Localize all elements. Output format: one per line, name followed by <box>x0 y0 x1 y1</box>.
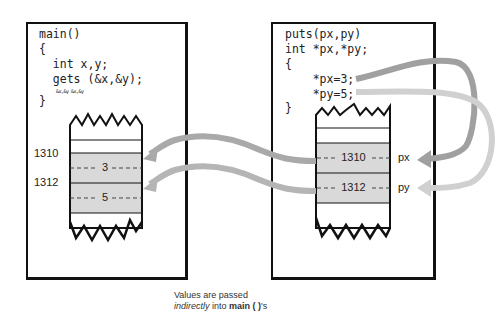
label-px: px <box>398 151 410 163</box>
caption: Values are passed indirectly into main (… <box>174 290 267 312</box>
caption-line-2: indirectly into main ( )'s <box>174 301 267 312</box>
value-px: 1310 <box>335 151 372 163</box>
arrow-py-to-y <box>143 166 316 192</box>
value-y: 5 <box>98 191 112 203</box>
label-py: py <box>398 181 410 193</box>
caption-italic: indirectly <box>174 301 210 311</box>
address-1310: 1310 <box>34 147 58 159</box>
value-py: 1312 <box>335 181 372 193</box>
caption-bold: main ( ) <box>229 301 261 311</box>
main-stack <box>70 114 142 240</box>
arrow-px-to-x <box>143 136 316 162</box>
caption-mid: into <box>210 301 230 311</box>
caption-line-1: Values are passed <box>174 290 267 301</box>
diagram-graphics <box>0 0 504 312</box>
caption-end: 's <box>261 301 267 311</box>
value-x: 3 <box>98 161 112 173</box>
puts-stack <box>316 104 390 238</box>
address-1312: 1312 <box>34 176 58 188</box>
